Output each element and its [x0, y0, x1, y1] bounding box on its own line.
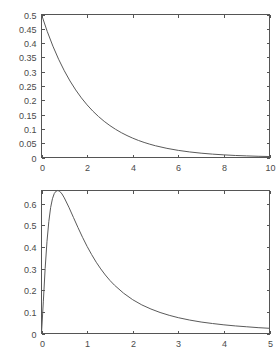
y-tick-label: 0.35 — [19, 53, 37, 63]
x-tick-labels-bottom: 012345 — [40, 339, 273, 349]
axes-top: 0246810 00.050.10.150.20.250.30.350.40.4… — [19, 11, 276, 173]
y-tick-label: 0.1 — [24, 308, 37, 318]
y-tick-label: 0.2 — [24, 286, 37, 296]
chart-svg-top: 0246810 00.050.10.150.20.250.30.350.40.4… — [0, 0, 280, 180]
y-tick-labels-bottom: 00.10.20.30.40.50.6 — [24, 200, 37, 340]
chart-panel-top: 0246810 00.050.10.150.20.250.30.350.40.4… — [0, 0, 280, 180]
figure-container: 0246810 00.050.10.150.20.250.30.350.40.4… — [0, 0, 280, 358]
y-tick-label: 0.6 — [24, 200, 37, 210]
y-tick-label: 0.3 — [24, 68, 37, 78]
y-tick-label: 0.2 — [24, 96, 37, 106]
x-tick-label: 0 — [40, 163, 45, 173]
density-curve-top — [42, 15, 270, 157]
x-tick-label: 4 — [222, 339, 227, 349]
plot-frame-bottom — [42, 191, 270, 334]
y-tick-label: 0 — [31, 330, 36, 340]
axes-bottom: 012345 00.10.20.30.40.50.6 — [24, 191, 273, 349]
x-tick-label: 1 — [85, 339, 90, 349]
y-tick-label: 0.1 — [24, 125, 37, 135]
y-tick-label: 0.3 — [24, 265, 37, 275]
y-tick-label: 0.15 — [19, 111, 37, 121]
y-tick-label: 0.5 — [24, 221, 37, 231]
x-tick-labels-top: 0246810 — [40, 163, 276, 173]
y-tick-marks-bottom — [42, 205, 270, 335]
y-tick-label: 0.45 — [19, 25, 37, 35]
x-tick-label: 8 — [222, 163, 227, 173]
x-tick-label: 3 — [176, 339, 181, 349]
x-tick-label: 5 — [268, 339, 273, 349]
density-curve-bottom — [42, 191, 270, 334]
plot-frame-top — [42, 15, 270, 158]
y-tick-label: 0 — [31, 154, 36, 164]
x-tick-marks-top — [43, 15, 271, 158]
chart-panel-bottom: 012345 00.10.20.30.40.50.6 — [0, 178, 280, 358]
y-tick-label: 0.5 — [24, 11, 37, 21]
y-tick-label: 0.05 — [19, 139, 37, 149]
x-tick-label: 4 — [131, 163, 136, 173]
x-tick-label: 2 — [131, 339, 136, 349]
x-tick-label: 6 — [176, 163, 181, 173]
chart-svg-bottom: 012345 00.10.20.30.40.50.6 — [0, 178, 280, 358]
x-tick-label: 2 — [85, 163, 90, 173]
y-tick-label: 0.4 — [24, 39, 37, 49]
y-tick-label: 0.25 — [19, 82, 37, 92]
y-tick-labels-top: 00.050.10.150.20.250.30.350.40.450.5 — [19, 11, 37, 164]
x-tick-label: 10 — [265, 163, 275, 173]
y-tick-marks-top — [42, 16, 270, 159]
y-tick-label: 0.4 — [24, 243, 37, 253]
x-tick-marks-bottom — [43, 191, 271, 334]
x-tick-label: 0 — [40, 339, 45, 349]
